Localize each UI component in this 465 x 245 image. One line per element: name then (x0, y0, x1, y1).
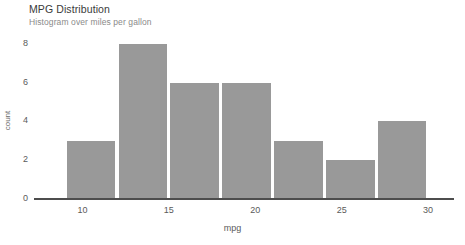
histogram-bar (119, 44, 168, 199)
y-tick-label: 8 (12, 38, 28, 48)
x-axis-line (34, 198, 454, 200)
x-tick-label: 20 (240, 205, 270, 215)
page-title: MPG Distribution (29, 3, 110, 15)
y-tick-label: 2 (12, 154, 28, 164)
y-tick-label: 4 (12, 115, 28, 125)
histogram-bar (222, 83, 271, 199)
histogram-bar (378, 121, 427, 199)
chart-subtitle: Histogram over miles per gallon (29, 17, 152, 27)
x-tick-label: 10 (67, 205, 97, 215)
x-tick-label: 30 (413, 205, 443, 215)
x-axis-title: mpg (0, 223, 465, 233)
histogram-bar (170, 83, 219, 199)
plot-area (34, 34, 454, 199)
x-tick-label: 25 (327, 205, 357, 215)
histogram-bar (67, 141, 116, 199)
histogram-bar (274, 141, 323, 199)
histogram-bar (326, 160, 375, 199)
histogram-figure: MPG Distribution Histogram over miles pe… (0, 0, 465, 245)
x-tick-label: 15 (154, 205, 184, 215)
y-tick-label: 0 (12, 193, 28, 203)
y-axis-title: count (3, 101, 12, 141)
y-tick-label: 6 (12, 77, 28, 87)
